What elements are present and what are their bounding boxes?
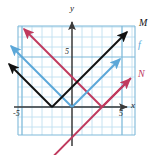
curve-label-f: f	[138, 40, 141, 50]
coordinate-plane-svg	[0, 0, 157, 155]
x-axis-label: x	[131, 101, 135, 110]
x-tick-label-neg5: -5	[13, 110, 20, 118]
curve-n-path	[24, 78, 131, 155]
curve-label-m: M	[139, 18, 147, 28]
y-tick-label-5: 5	[65, 48, 69, 56]
x-tick-label-5: 5	[119, 110, 123, 118]
y-axis-label: y	[70, 4, 74, 13]
graph-figure: y x 5 5 -5 M f N	[0, 0, 157, 155]
curve-n-visible	[23, 78, 131, 155]
curve-label-n: N	[138, 69, 145, 79]
